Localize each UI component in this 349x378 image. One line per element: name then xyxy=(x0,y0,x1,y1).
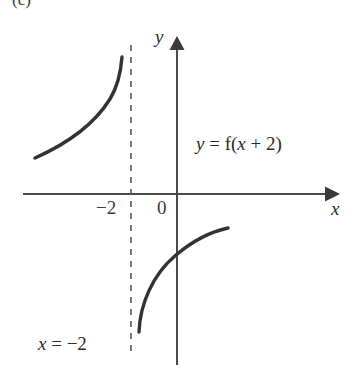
y-axis-label: y xyxy=(155,27,163,46)
function-equation-fn-name: f( xyxy=(225,133,238,154)
function-graph-figure: (c) y x −2 0 y = f(x + 2) x = −2 xyxy=(0,0,349,378)
x-axis-label: x xyxy=(331,199,339,218)
x-tick-label-minus-two: −2 xyxy=(96,198,116,217)
x-tick-label-zero: 0 xyxy=(157,198,167,217)
asymptote-equation-rhs: = −2 xyxy=(51,333,87,354)
curve-lower-right-branch xyxy=(139,228,228,332)
function-equation-arg-var: x xyxy=(237,133,245,154)
asymptote-equation-label: x = −2 xyxy=(38,334,87,353)
y-axis-arrowhead xyxy=(170,36,185,50)
graph-canvas xyxy=(0,0,349,378)
part-label: (c) xyxy=(12,0,31,8)
curve-upper-left-branch xyxy=(35,57,122,158)
function-equation-label: y = f(x + 2) xyxy=(196,134,282,153)
function-equation-arg-rest: + 2) xyxy=(251,133,282,154)
function-equation-equals-sign: = xyxy=(209,133,220,154)
